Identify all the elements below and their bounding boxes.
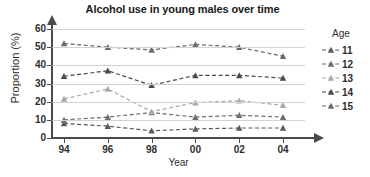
y-axis-tick-label: 20 [26, 97, 46, 107]
y-axis-tick-label: 60 [26, 24, 46, 34]
plot-area [52, 29, 305, 138]
legend-item-age-14[interactable]: 14 [322, 85, 370, 99]
legend-marker-icon [322, 101, 340, 111]
series-13 [61, 86, 286, 115]
data-point-marker [148, 108, 154, 114]
legend-item-label: 13 [342, 73, 353, 84]
legend-item-label: 14 [342, 87, 353, 98]
x-axis-tick-label: 00 [182, 144, 208, 155]
data-point-marker [105, 86, 111, 92]
gridline [52, 102, 305, 103]
gridline [52, 29, 305, 30]
legend-entries: 1112131415 [322, 43, 370, 113]
x-axis-tick-label: 94 [51, 144, 77, 155]
y-axis-tick-label: 50 [26, 42, 46, 52]
series-15 [61, 40, 286, 59]
legend-item-label: 15 [342, 101, 353, 112]
legend-item-label: 12 [342, 59, 353, 70]
data-point-marker [148, 128, 154, 134]
gridline [52, 47, 305, 48]
x-axis-arrow-icon [314, 133, 324, 143]
y-axis-tick-labels: 0102030405060 [20, 0, 46, 177]
x-axis-title: Year [52, 157, 305, 168]
x-axis-tick-label: 96 [95, 144, 121, 155]
y-axis-tick-label: 0 [26, 133, 46, 143]
y-axis-title: Proportion (%) [9, 23, 21, 113]
x-axis-tick-label: 04 [270, 144, 296, 155]
legend-item-age-13[interactable]: 13 [322, 71, 370, 85]
x-axis-tick-mark [64, 139, 65, 143]
legend-marker-icon [322, 73, 340, 83]
legend-item-age-12[interactable]: 12 [322, 57, 370, 71]
gridline [52, 120, 305, 121]
x-axis-tick-mark [239, 139, 240, 143]
legend-marker-icon [322, 45, 340, 55]
legend-item-label: 11 [342, 45, 353, 56]
x-axis-tick-mark [283, 139, 284, 143]
series-11 [61, 120, 286, 133]
series-line-13 [64, 89, 283, 112]
series-line-15 [64, 44, 283, 57]
y-axis-tick-label: 40 [26, 60, 46, 70]
x-axis-tick-label: 02 [226, 144, 252, 155]
legend-title: Age [332, 28, 370, 40]
legend-item-age-11[interactable]: 11 [322, 43, 370, 57]
y-axis-tick-label: 30 [26, 79, 46, 89]
gridline [52, 65, 305, 66]
series-line-11 [64, 123, 283, 130]
legend-marker-icon [322, 59, 340, 69]
data-point-marker [280, 125, 286, 131]
x-axis-tick-mark [152, 139, 153, 143]
chart-container: Alcohol use in young males over time 010… [0, 0, 370, 177]
x-axis-tick-label: 98 [139, 144, 165, 155]
data-point-marker [192, 72, 198, 78]
legend-item-age-15[interactable]: 15 [322, 99, 370, 113]
chart-title: Alcohol use in young males over time [55, 3, 310, 16]
x-axis-tick-mark [195, 139, 196, 143]
series-line-12 [64, 113, 283, 120]
y-axis-tick-label: 10 [26, 115, 46, 125]
gridline [52, 84, 305, 85]
series-14 [61, 68, 286, 89]
y-axis-tick-mark [47, 138, 52, 139]
legend: Age 1112131415 [322, 28, 370, 113]
legend-marker-icon [322, 87, 340, 97]
x-axis-tick-mark [108, 139, 109, 143]
